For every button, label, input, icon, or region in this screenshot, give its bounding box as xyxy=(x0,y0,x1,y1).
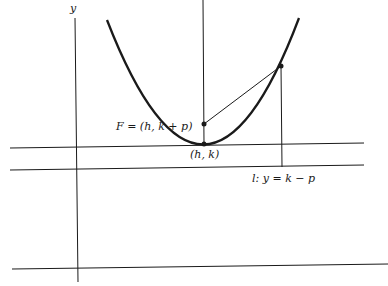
x-axis xyxy=(12,264,388,269)
vertex-tangent-line xyxy=(10,143,364,148)
y-axis-label: y xyxy=(69,2,77,15)
y-axis xyxy=(75,18,78,282)
parabola-point xyxy=(279,64,284,69)
point-to-directrix-line xyxy=(281,66,282,167)
parabola-diagram: y F = (h, k + p) (h, k) l: y = k − p xyxy=(0,0,388,286)
directrix-label: l: y = k − p xyxy=(252,172,315,185)
vertex-label: (h, k) xyxy=(190,148,219,161)
focus-point xyxy=(202,122,207,127)
focus-to-point-line xyxy=(204,66,281,124)
vertex-point xyxy=(202,142,207,147)
focus-label: F = (h, k + p) xyxy=(115,120,192,133)
directrix-line xyxy=(10,165,364,170)
